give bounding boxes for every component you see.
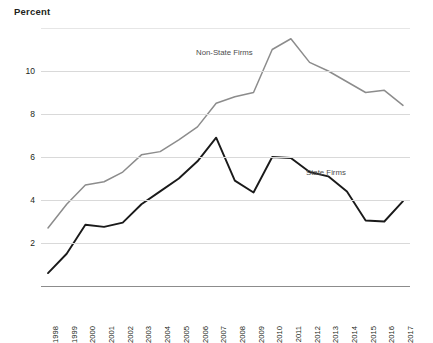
x-tick-2009: 2009 [257, 326, 266, 343]
gridline-10 [41, 71, 410, 72]
x-tick-2000: 2000 [88, 326, 97, 343]
x-tick-1998: 1998 [51, 326, 60, 343]
x-tick-1999: 1999 [70, 326, 79, 343]
x-axis-tick-labels: 1998199920002001200220032004200520062007… [41, 289, 410, 330]
gridline-2 [41, 243, 410, 244]
x-tick-2014: 2014 [350, 326, 359, 343]
gridline-12 [41, 28, 410, 29]
series-label-non-state-firms: Non-State Firms [196, 48, 253, 57]
x-tick-2017: 2017 [406, 326, 415, 343]
y-tick-6: 6 [0, 152, 35, 162]
x-tick-2008: 2008 [238, 326, 247, 343]
y-tick-10: 10 [0, 66, 35, 76]
y-tick-8: 8 [0, 109, 35, 119]
x-tick-2001: 2001 [107, 326, 116, 343]
series-label-state-firms: State Firms [306, 168, 346, 177]
x-tick-2012: 2012 [313, 326, 322, 343]
x-tick-2011: 2011 [294, 326, 303, 342]
y-tick-4: 4 [0, 195, 35, 205]
x-tick-2002: 2002 [126, 326, 135, 343]
gridline-6 [41, 157, 410, 158]
x-tick-2015: 2015 [369, 326, 378, 343]
x-tick-2007: 2007 [219, 326, 228, 343]
x-tick-2005: 2005 [182, 326, 191, 343]
x-tick-2013: 2013 [331, 326, 340, 343]
x-tick-2004: 2004 [163, 326, 172, 343]
x-tick-2003: 2003 [144, 326, 153, 343]
x-axis-line [41, 286, 410, 287]
plot-area [41, 28, 410, 286]
x-tick-2016: 2016 [387, 326, 396, 343]
x-tick-2006: 2006 [201, 326, 210, 343]
x-tick-2010: 2010 [275, 326, 284, 343]
y-tick-2: 2 [0, 238, 35, 248]
gridline-4 [41, 200, 410, 201]
gridline-8 [41, 114, 410, 115]
